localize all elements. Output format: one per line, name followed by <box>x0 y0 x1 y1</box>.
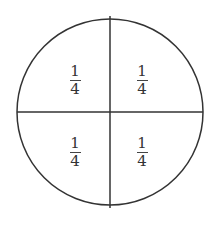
denominator: 4 <box>63 154 87 169</box>
numerator: 1 <box>63 136 87 151</box>
numerator: 1 <box>130 64 154 79</box>
fraction-top-right: 1 4 <box>130 64 154 97</box>
fraction-top-left: 1 4 <box>63 64 87 97</box>
circle-diagram <box>0 0 212 226</box>
numerator: 1 <box>130 136 154 151</box>
denominator: 4 <box>130 82 154 97</box>
denominator: 4 <box>63 82 87 97</box>
numerator: 1 <box>63 64 87 79</box>
fraction-bottom-right: 1 4 <box>130 136 154 169</box>
fraction-bottom-left: 1 4 <box>63 136 87 169</box>
denominator: 4 <box>130 154 154 169</box>
